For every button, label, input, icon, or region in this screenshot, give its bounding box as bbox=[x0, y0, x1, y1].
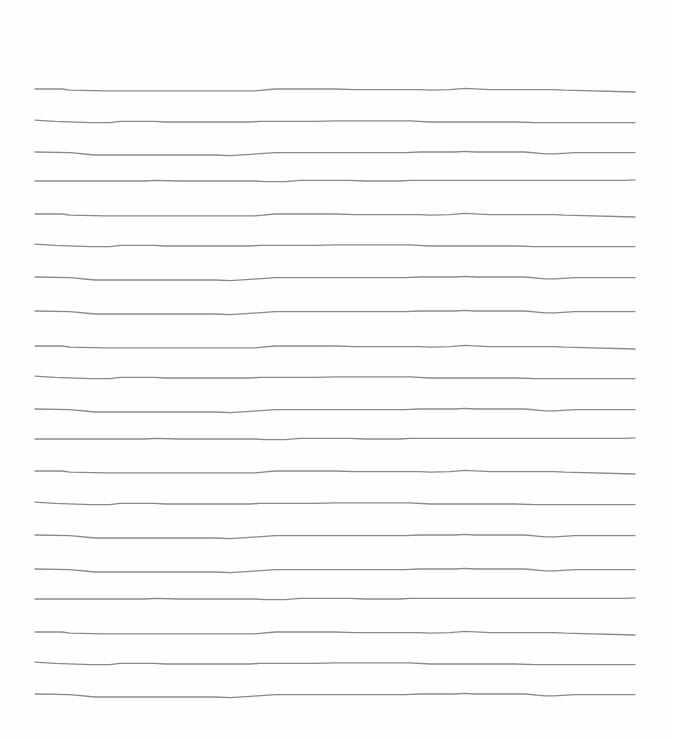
ruled-line bbox=[35, 310, 635, 314]
ruled-lines bbox=[0, 0, 673, 740]
ruled-line bbox=[35, 345, 635, 349]
ruled-line bbox=[35, 631, 635, 635]
ruled-line bbox=[35, 568, 635, 572]
ruled-line bbox=[35, 408, 635, 412]
ruled-line bbox=[35, 693, 635, 697]
ruled-line bbox=[35, 151, 635, 155]
ruled-line bbox=[35, 88, 635, 92]
ruled-line bbox=[35, 244, 635, 246]
ruled-line bbox=[35, 213, 635, 217]
ruled-line bbox=[35, 376, 635, 378]
ruled-line bbox=[35, 276, 635, 280]
ruled-line bbox=[35, 470, 635, 474]
ruled-page bbox=[0, 0, 673, 740]
ruled-line bbox=[35, 534, 635, 538]
ruled-line bbox=[35, 180, 635, 182]
ruled-line bbox=[35, 598, 635, 600]
ruled-line bbox=[35, 502, 635, 504]
ruled-line bbox=[35, 438, 635, 440]
ruled-line bbox=[35, 120, 635, 122]
ruled-line bbox=[35, 662, 635, 664]
